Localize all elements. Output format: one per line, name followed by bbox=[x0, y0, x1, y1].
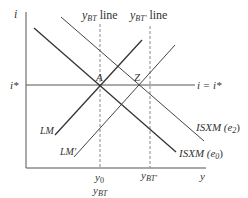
i-equals-i-star-label: i = i* bbox=[197, 79, 222, 91]
point-a-label: A bbox=[95, 71, 103, 83]
economics-diagram: i y i* i = i* yBT line yBT' line A Z LM … bbox=[0, 0, 248, 198]
lm-prime-label: LM' bbox=[59, 146, 77, 157]
point-z-label: Z bbox=[134, 71, 141, 83]
isxm-e2-label: ISXM (e2) bbox=[195, 121, 240, 135]
y-axis-label: i bbox=[14, 7, 17, 21]
isxm-e0-label: ISXM (e0) bbox=[178, 147, 223, 161]
lm-curve bbox=[55, 40, 142, 135]
lm-label: LM bbox=[39, 125, 55, 136]
ybt-bottom-label: yBT bbox=[92, 184, 108, 198]
x-axis-label: y bbox=[199, 170, 205, 182]
ybt-prime-line-label: yBT' line bbox=[129, 8, 167, 23]
lm-prime-curve bbox=[74, 45, 175, 157]
ybt-line-label: yBT line bbox=[81, 8, 118, 23]
i-star-label: i* bbox=[10, 79, 19, 91]
ybt-prime-bottom-label: yBT' bbox=[140, 169, 157, 183]
y0-label: y0 bbox=[94, 171, 104, 185]
isxm-e2-curve bbox=[61, 17, 204, 141]
isxm-e0-curve bbox=[34, 28, 176, 152]
